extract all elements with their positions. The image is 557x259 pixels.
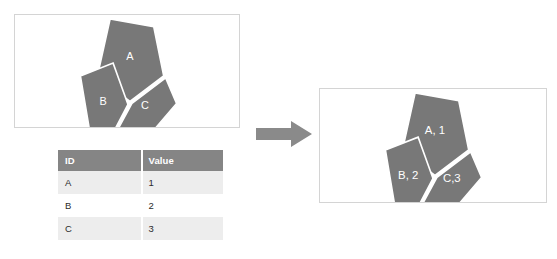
arrow-icon (256, 119, 312, 149)
joined-polygon-c-label: C,3 (443, 172, 461, 184)
geometry-panel: A B C (14, 14, 240, 128)
table-row[interactable]: B 2 (58, 194, 223, 217)
joined-polygon-a-label: A, 1 (425, 124, 445, 136)
transform-arrow (256, 119, 312, 149)
table-header-row: ID Value (58, 150, 223, 171)
column-header-id: ID (58, 150, 141, 171)
cell-id: B (58, 194, 141, 217)
polygon-a-label: A (126, 50, 134, 62)
geometry-svg: A B C (15, 15, 239, 127)
cell-id: C (58, 217, 141, 240)
joined-geometry-svg: A, 1 B, 2 C,3 (320, 89, 546, 202)
table-row[interactable]: A 1 (58, 171, 223, 194)
cell-value: 1 (141, 171, 224, 194)
table-row[interactable]: C 3 (58, 217, 223, 240)
attribute-table: ID Value A 1 B 2 C 3 (58, 150, 223, 240)
joined-polygon-b-label: B, 2 (398, 169, 418, 181)
column-header-value: Value (141, 150, 224, 171)
cell-value: 3 (141, 217, 224, 240)
polygon-b-label: B (100, 95, 107, 107)
joined-geometry-panel: A, 1 B, 2 C,3 (319, 88, 547, 203)
cell-id: A (58, 171, 141, 194)
polygon-c-label: C (141, 99, 149, 111)
cell-value: 2 (141, 194, 224, 217)
